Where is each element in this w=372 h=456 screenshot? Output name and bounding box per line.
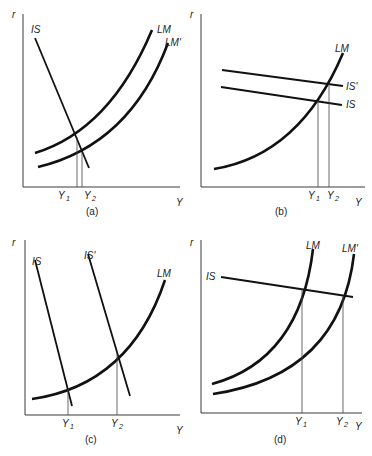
axes xyxy=(201,14,365,187)
y2-label: Y xyxy=(84,190,92,201)
y1-subscript: 1 xyxy=(70,423,74,430)
y2-label: Y xyxy=(336,416,344,427)
panel-b: r Y LM IS' IS Y 1 Y 2 (b) xyxy=(190,9,365,217)
lm-prime-label: LM' xyxy=(342,243,359,254)
is-label: IS xyxy=(32,256,42,267)
lm-curve xyxy=(214,53,343,169)
is-prime-curve xyxy=(222,70,343,86)
y1-label: Y xyxy=(308,190,316,201)
r-axis-label: r xyxy=(12,9,16,20)
lm-prime-curve xyxy=(38,43,168,167)
axes xyxy=(25,240,180,415)
panel-caption: (a) xyxy=(86,206,98,217)
y2-subscript: 2 xyxy=(343,421,348,428)
is-label: IS xyxy=(346,99,356,110)
lm-curve xyxy=(35,30,152,153)
axes xyxy=(23,14,180,187)
panel-d: r Y LM LM' IS Y 1 Y 2 (d) xyxy=(190,237,363,445)
lm-label: LM xyxy=(306,240,321,251)
lm-curve xyxy=(32,280,165,399)
lm-label: LM xyxy=(157,268,172,279)
panel-caption: (c) xyxy=(85,434,97,445)
lm-label: LM xyxy=(157,24,172,35)
panel-a: r Y IS LM LM' Y 1 Y 2 (a) xyxy=(12,9,184,217)
lm-curve xyxy=(212,249,313,384)
r-axis-label: r xyxy=(190,9,194,20)
y1-subscript: 1 xyxy=(303,421,307,428)
is-prime-label: IS' xyxy=(346,81,358,92)
y1-subscript: 1 xyxy=(66,195,70,202)
y2-subscript: 2 xyxy=(91,195,96,202)
y2-label: Y xyxy=(327,190,335,201)
panel-c: r Y IS IS' LM Y 1 Y 2 (c) xyxy=(12,237,184,445)
islm-diagram: r Y IS LM LM' Y 1 Y 2 (a) r Y LM IS' IS … xyxy=(0,0,372,456)
y1-label: Y xyxy=(295,416,303,427)
is-curve xyxy=(35,260,72,406)
lm-label: LM xyxy=(335,43,350,54)
y-axis-label: Y xyxy=(176,425,184,436)
y-axis-label: Y xyxy=(176,197,184,208)
is-label: IS xyxy=(31,24,41,35)
lm-prime-curve xyxy=(213,254,354,394)
is-curve xyxy=(221,277,353,297)
y2-label: Y xyxy=(111,418,119,429)
r-axis-label: r xyxy=(190,237,194,248)
y1-label: Y xyxy=(58,190,66,201)
panel-caption: (b) xyxy=(275,206,287,217)
panel-caption: (d) xyxy=(274,434,286,445)
y1-label: Y xyxy=(62,418,70,429)
y-axis-label: Y xyxy=(355,197,363,208)
r-axis-label: r xyxy=(12,237,16,248)
y-axis-label: Y xyxy=(355,421,363,432)
is-label: IS xyxy=(206,271,216,282)
is-prime-curve xyxy=(88,254,130,396)
is-prime-label: IS' xyxy=(84,250,96,261)
axes xyxy=(201,240,362,413)
y2-subscript: 2 xyxy=(118,423,123,430)
is-curve xyxy=(35,38,89,168)
lm-prime-label: LM' xyxy=(165,37,182,48)
y1-subscript: 1 xyxy=(316,195,320,202)
y2-subscript: 2 xyxy=(334,195,339,202)
